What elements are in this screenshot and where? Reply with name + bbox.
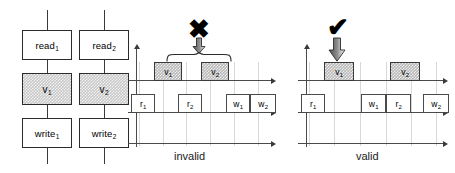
event-v1-invalid: v1 xyxy=(154,62,182,81)
down-arrow-valid xyxy=(328,38,346,62)
event-w1-invalid-label: w1 xyxy=(233,99,242,109)
flow-edge-read2-v2 xyxy=(104,60,105,73)
flow-edge-v2-write2 xyxy=(104,105,105,118)
verdict-valid: valid xyxy=(356,150,379,162)
event-v1-valid-label: v1 xyxy=(335,67,343,77)
flow-node-read2-label: read2 xyxy=(92,40,115,51)
flow-node-v1-label: v1 xyxy=(43,84,52,95)
event-w2-valid-label: w2 xyxy=(431,99,440,109)
vertical-axis-arrow-invalid xyxy=(134,44,140,49)
axis-validation-invalid xyxy=(128,80,271,81)
flow-node-v2: v2 xyxy=(79,73,129,105)
event-w2-invalid: w2 xyxy=(250,94,276,113)
axis-base-invalid xyxy=(128,143,271,144)
subscript: 1 xyxy=(340,72,343,78)
transaction-flowchart: read1 v1 write1 read2 v2 write2 xyxy=(0,0,118,173)
subscript: 2 xyxy=(216,72,219,78)
event-r2-valid: r2 xyxy=(386,94,411,113)
subscript: 1 xyxy=(240,104,243,110)
axis-base-valid xyxy=(298,143,443,144)
event-w1-valid: w1 xyxy=(361,94,386,113)
event-v2-invalid-label: v2 xyxy=(211,67,219,77)
flow-node-read2: read2 xyxy=(79,30,129,60)
panel-invalid: ✖ v1 xyxy=(128,0,283,173)
flow-edge-read1-v1 xyxy=(47,60,48,73)
subscript: 2 xyxy=(438,104,441,110)
axis-base-arrow-valid xyxy=(443,141,448,147)
subscript: 2 xyxy=(105,89,109,96)
flow-edge-top-t1 xyxy=(47,10,48,30)
event-r1-invalid: r1 xyxy=(131,94,155,113)
event-r1-valid: r1 xyxy=(301,94,325,113)
event-r1-invalid-label: r1 xyxy=(140,99,146,109)
flow-node-read1: read1 xyxy=(22,30,72,60)
event-v2-valid: v2 xyxy=(390,62,420,81)
event-w1-valid-label: w1 xyxy=(369,99,378,109)
axis-base-arrow-invalid xyxy=(271,141,276,147)
event-v1-invalid-label: v1 xyxy=(164,67,172,77)
subscript: 1 xyxy=(143,104,146,110)
flow-node-write1: write1 xyxy=(22,118,72,148)
subscript: 2 xyxy=(190,104,193,110)
subscript: 1 xyxy=(55,45,59,52)
event-w1-invalid: w1 xyxy=(226,94,250,113)
flow-node-write1-label: write1 xyxy=(35,128,59,139)
event-r1-valid-label: r1 xyxy=(310,99,316,109)
flow-edge-bottom-t2 xyxy=(104,148,105,164)
event-r2-valid-label: r2 xyxy=(395,99,401,109)
flow-edge-top-t2 xyxy=(104,10,105,30)
subscript: 1 xyxy=(375,104,378,110)
panel-valid: ✔ v1 v2 xyxy=(298,0,455,173)
verdict-invalid: invalid xyxy=(174,150,205,162)
brace-invalid xyxy=(166,52,232,62)
subscript: 2 xyxy=(406,72,409,78)
subscript: 1 xyxy=(56,133,60,140)
axis-validation-valid xyxy=(298,80,443,81)
subscript: 2 xyxy=(113,133,117,140)
flow-node-read1-label: read1 xyxy=(35,40,58,51)
axis-validation-arrow-invalid xyxy=(271,78,276,84)
check-mark: ✔ xyxy=(327,14,349,40)
flow-edge-bottom-t1 xyxy=(47,148,48,164)
subscript: 2 xyxy=(112,45,116,52)
flow-node-v1: v1 xyxy=(22,73,72,105)
flow-node-write2: write2 xyxy=(79,118,129,148)
figure-root: read1 v1 write1 read2 v2 write2 ✖ xyxy=(0,0,455,173)
event-v2-invalid: v2 xyxy=(201,62,229,81)
vertical-axis-arrow-valid xyxy=(304,44,310,49)
event-r2-invalid-label: r2 xyxy=(187,99,193,109)
flow-node-v2-label: v2 xyxy=(100,84,109,95)
event-w2-valid: w2 xyxy=(423,94,449,113)
event-v2-valid-label: v2 xyxy=(401,67,409,77)
subscript: 2 xyxy=(265,104,268,110)
axis-validation-arrow-valid xyxy=(443,78,448,84)
flow-node-write2-label: write2 xyxy=(92,128,116,139)
subscript: 1 xyxy=(313,104,316,110)
flow-edge-v1-write1 xyxy=(47,105,48,118)
event-r2-invalid: r2 xyxy=(178,94,202,113)
subscript: 2 xyxy=(399,104,402,110)
subscript: 1 xyxy=(48,89,52,96)
subscript: 1 xyxy=(169,72,172,78)
event-v1-valid: v1 xyxy=(324,62,354,81)
event-w2-invalid-label: w2 xyxy=(258,99,267,109)
